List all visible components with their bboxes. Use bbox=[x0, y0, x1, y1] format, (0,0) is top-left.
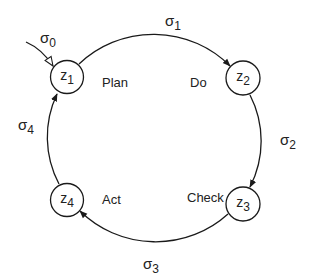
node-symbol: z bbox=[236, 194, 243, 210]
transition-symbol: σ bbox=[280, 131, 289, 148]
transition-symbol: σ bbox=[18, 116, 27, 133]
phase-label-do: Do bbox=[190, 76, 207, 89]
node-index: 2 bbox=[243, 74, 250, 88]
node-label-z4: z4 bbox=[60, 191, 74, 209]
transition-symbol: σ bbox=[143, 255, 152, 272]
transition-index: 1 bbox=[174, 19, 181, 33]
transition-symbol: σ bbox=[40, 29, 49, 46]
phase-label-check: Check bbox=[187, 191, 224, 204]
node-index: 3 bbox=[243, 200, 250, 214]
node-label-z3: z3 bbox=[236, 195, 250, 213]
transition-label-s0: σ0 bbox=[40, 30, 56, 49]
phase-label-act: Act bbox=[102, 193, 121, 206]
transition-label-s2: σ2 bbox=[280, 132, 296, 151]
transition-arc-s3 bbox=[80, 211, 228, 242]
transition-label-s4: σ4 bbox=[18, 117, 34, 136]
node-label-z1: z1 bbox=[60, 68, 74, 86]
transition-arc-s2 bbox=[250, 95, 261, 187]
transition-index: 2 bbox=[289, 138, 296, 152]
node-symbol: z bbox=[236, 68, 243, 84]
node-symbol: z bbox=[60, 67, 67, 83]
transition-symbol: σ bbox=[165, 12, 174, 29]
transition-arc-s4 bbox=[47, 94, 59, 184]
node-symbol: z bbox=[60, 190, 67, 206]
transition-label-s3: σ3 bbox=[143, 256, 159, 275]
transition-index: 4 bbox=[27, 123, 34, 137]
transition-label-s1: σ1 bbox=[165, 13, 181, 32]
node-index: 1 bbox=[67, 73, 74, 87]
node-label-z2: z2 bbox=[236, 69, 250, 87]
transition-arc-s1 bbox=[79, 34, 230, 66]
transition-index: 0 bbox=[49, 36, 56, 50]
node-index: 4 bbox=[67, 196, 74, 210]
transition-index: 3 bbox=[152, 262, 159, 276]
phase-label-plan: Plan bbox=[102, 76, 128, 89]
